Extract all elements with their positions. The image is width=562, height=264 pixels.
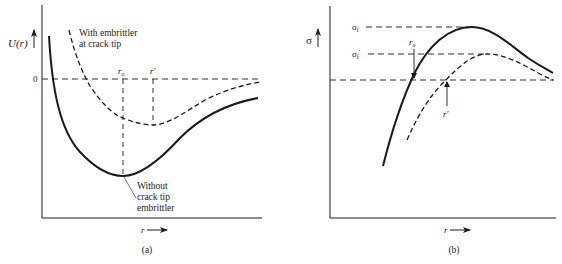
panel-a-solid-curve-label-3: embrittler [137, 203, 175, 213]
panel-a-solid-curve-label-2: crack tip [137, 192, 170, 202]
panel-a-rprime-label: r′ [150, 66, 157, 76]
panel-b-sigma-f-label: σf [352, 22, 359, 33]
panel-a-solid-curve [49, 36, 258, 176]
panel-a-caption: (a) [142, 245, 153, 256]
panel-a-dashed-curve-label-1: With embrittler [79, 28, 138, 38]
panel-b: σ σf σf′ ro r′ r (b) [306, 6, 556, 256]
panel-a-x-label: r [141, 225, 145, 235]
panel-b-caption: (b) [448, 245, 459, 256]
panel-b-r0-label: ro [409, 37, 416, 48]
panel-b-y-label: σ [306, 34, 312, 46]
panel-a-y-label: U(r) [8, 37, 28, 50]
panel-a-zero-label: 0 [33, 74, 38, 84]
panel-a: U(r) 0 ro r′ With embrittler at crack ti… [8, 5, 262, 256]
panel-b-sigma-f-prime-label: σf′ [352, 48, 361, 60]
panel-b-solid-curve [383, 27, 553, 166]
panel-a-dashed-curve-label-2: at crack tip [79, 39, 121, 49]
panel-b-x-label: r [444, 225, 448, 235]
panel-b-rprime-label: r′ [443, 109, 450, 119]
panel-a-leader-line [124, 177, 136, 198]
panel-a-solid-curve-label-1: Without [137, 181, 168, 191]
panel-b-dashed-curve [407, 54, 553, 140]
panel-a-r0-label: ro [118, 66, 125, 77]
figure: U(r) 0 ro r′ With embrittler at crack ti… [0, 0, 562, 264]
